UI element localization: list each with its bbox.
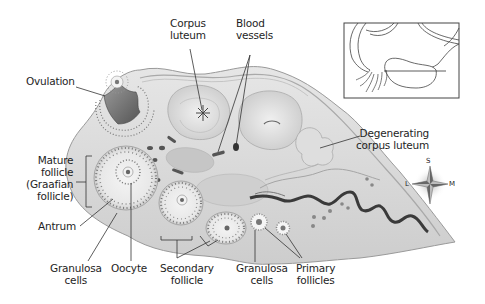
primary-follicle bbox=[277, 222, 290, 235]
ovary-diagram: Ovulation Corpus luteum Blood vessels De… bbox=[0, 0, 485, 304]
label-degenerating-corpus-luteum: Degenerating corpus luteum bbox=[356, 127, 429, 151]
corpus-luteum-2 bbox=[239, 91, 303, 150]
compass-lateral-label: L bbox=[405, 180, 409, 188]
secondary-follicle bbox=[206, 212, 246, 244]
label-oocyte: Oocyte bbox=[111, 262, 147, 274]
stroma-region bbox=[196, 174, 268, 206]
label-secondary-follicle: Secondary follicle bbox=[160, 262, 214, 286]
label-granulosa-cells-left: Granulosa cells bbox=[50, 262, 102, 286]
label-ovulation: Ovulation bbox=[26, 75, 75, 87]
ovary-illustration bbox=[0, 0, 485, 304]
locator-inset bbox=[344, 23, 459, 98]
label-blood-vessels: Blood vessels bbox=[236, 17, 273, 41]
label-primary-follicles: Primary follicles bbox=[296, 262, 335, 286]
mature-follicle bbox=[94, 146, 158, 210]
compass-medial-label: M bbox=[449, 180, 455, 188]
label-corpus-luteum: Corpus luteum bbox=[170, 17, 206, 41]
primary-follicle bbox=[251, 214, 267, 230]
label-mature-follicle: Mature follicle (Graafian follicle) bbox=[26, 154, 73, 202]
label-antrum: Antrum bbox=[38, 220, 76, 232]
secondary-follicle bbox=[159, 181, 203, 225]
label-granulosa-cells-right: Granulosa cells bbox=[236, 262, 288, 286]
compass-superior-label: S bbox=[426, 157, 430, 165]
